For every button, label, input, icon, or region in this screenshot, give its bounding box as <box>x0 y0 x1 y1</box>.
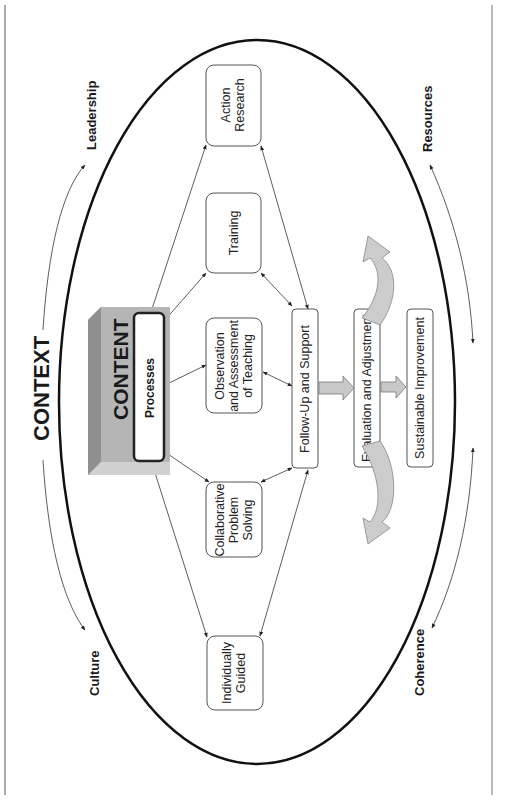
svg-text:and Assessment: and Assessment <box>227 320 241 412</box>
block-arrow-1 <box>319 376 354 400</box>
svg-text:Evaluation and Adjustment: Evaluation and Adjustment <box>360 313 374 462</box>
svg-text:Solving: Solving <box>241 499 255 540</box>
professional-development-diagram: Leadership Resources Culture Coherence C… <box>0 0 514 803</box>
label-culture: Culture <box>87 651 102 697</box>
context-title: CONTEXT <box>29 335 54 441</box>
svg-text:Collaborative: Collaborative <box>213 483 227 556</box>
content-block: CONTENT Processes <box>88 307 170 475</box>
content-title: CONTENT <box>109 318 132 420</box>
svg-text:Guided: Guided <box>234 653 248 693</box>
svg-text:Action: Action <box>219 88 233 123</box>
model-observation: Observation and Assessment of Teaching <box>206 318 262 413</box>
model-action-research: Action Research <box>206 65 261 146</box>
svg-text:Research: Research <box>233 78 247 132</box>
processes-label: Processes <box>143 358 157 418</box>
flow-sustainable: Sustainable Improvement <box>407 309 433 467</box>
svg-text:Follow-Up and Support: Follow-Up and Support <box>298 325 312 453</box>
svg-text:Individually: Individually <box>220 641 234 704</box>
model-collaborative: Collaborative Problem Solving <box>206 482 262 557</box>
curved-arrow-up <box>362 236 394 325</box>
svg-text:Observation: Observation <box>213 332 227 399</box>
svg-text:Training: Training <box>227 211 241 256</box>
svg-text:Sustainable Improvement: Sustainable Improvement <box>413 317 427 459</box>
arc-arrow-coherence <box>432 448 473 628</box>
flow-follow-up: Follow-Up and Support <box>292 309 318 468</box>
model-training: Training <box>206 193 261 273</box>
label-resources: Resources <box>420 86 435 152</box>
svg-text:Problem: Problem <box>227 497 241 544</box>
model-individually-guided: Individually Guided <box>207 636 263 710</box>
label-coherence: Coherence <box>412 629 427 696</box>
label-leadership: Leadership <box>84 81 99 150</box>
svg-text:of Teaching: of Teaching <box>241 334 255 398</box>
block-arrow-2 <box>381 376 406 398</box>
